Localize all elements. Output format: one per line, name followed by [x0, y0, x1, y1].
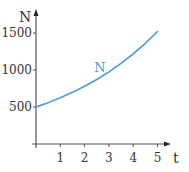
x-tick-label: 4 [129, 151, 137, 165]
x-tick-label: 3 [105, 151, 113, 165]
axes [32, 9, 171, 148]
chart: Nt5001000150012345N [0, 0, 189, 172]
curve-label: N [94, 60, 105, 75]
ticks [33, 33, 158, 147]
x-tick-label: 1 [56, 151, 64, 165]
y-tick-label: 500 [9, 100, 32, 114]
y-axis-arrow-icon [34, 9, 39, 16]
x-axis-label: t [173, 150, 179, 166]
y-tick-label: 1000 [1, 63, 32, 77]
x-axis-arrow-icon [164, 142, 171, 147]
y-tick-label: 1500 [1, 26, 32, 40]
y-axis-label: N [19, 9, 31, 25]
x-tick-label: 5 [154, 151, 162, 165]
x-tick-label: 2 [81, 151, 89, 165]
labels: Nt5001000150012345N [1, 9, 179, 166]
